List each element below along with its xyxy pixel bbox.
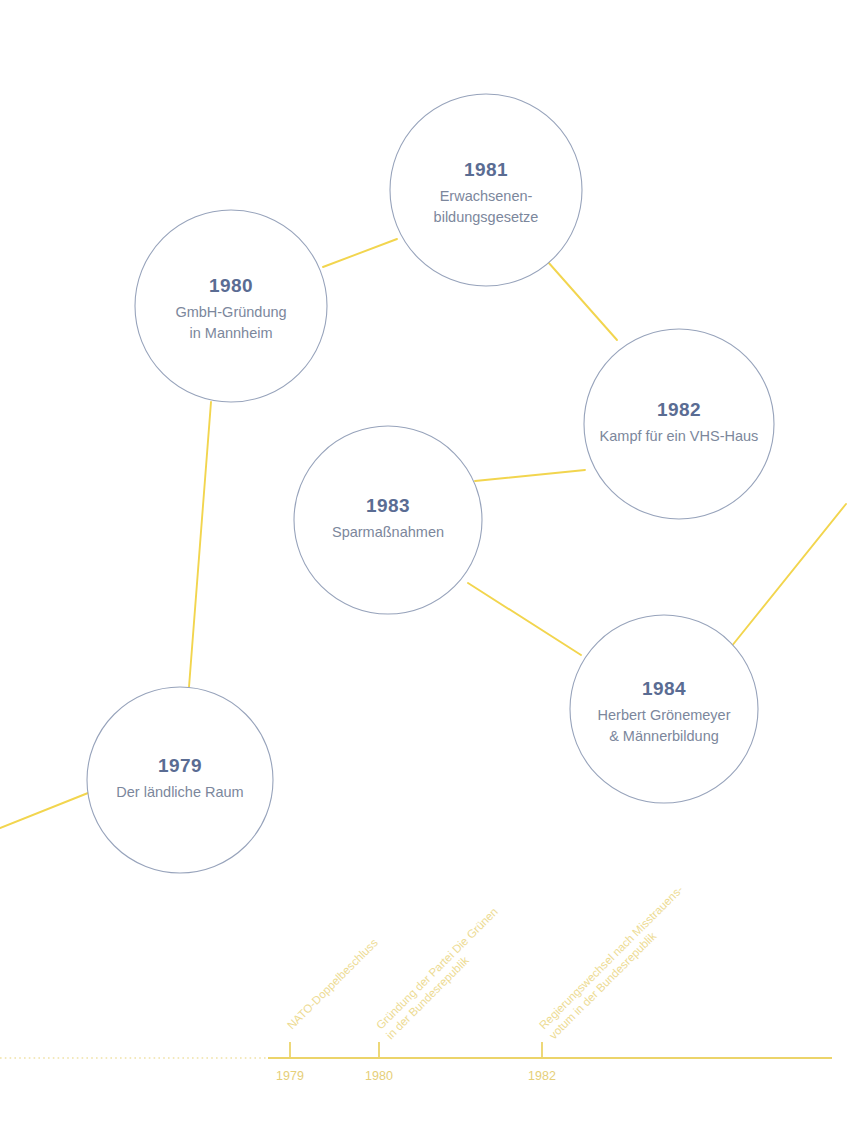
node-circle-1983[interactable] [294, 426, 482, 614]
timeline-node-1981[interactable]: 1981Erwachsenen-bildungsgesetze [390, 94, 582, 286]
axis-ticks [290, 1042, 542, 1058]
node-circle-1979[interactable] [87, 687, 273, 873]
event-label-1-line-1: NATO-Doppelbeschluss [285, 936, 380, 1031]
connector-1980-to-1981 [323, 239, 397, 267]
node-description-1984-line-2: & Männerbildung [609, 728, 719, 744]
node-description-1979-line-1: Der ländliche Raum [116, 784, 243, 800]
node-description-1980-line-2: in Mannheim [189, 325, 272, 341]
node-year-1984: 1984 [642, 678, 686, 699]
node-description-1983-line-1: Sparmaßnahmen [332, 524, 444, 540]
node-year-1980: 1980 [209, 275, 253, 296]
connector-1979-to-1980 [189, 402, 211, 687]
event-label-2-line-2: in der Bundesrepublik [384, 954, 471, 1041]
event-label-2-line-1: Gründung der Partei Die Grünen [374, 905, 500, 1031]
event-label-3-line-2: votum in der Bundesrepublik [547, 930, 659, 1042]
timeline-node-1979[interactable]: 1979Der ländliche Raum [87, 687, 273, 873]
node-description-1981-line-2: bildungsgesetze [434, 209, 539, 225]
node-description-1982-line-1: Kampf für ein VHS-Haus [600, 428, 759, 444]
timeline-node-1980[interactable]: 1980GmbH-Gründungin Mannheim [135, 210, 327, 402]
timeline-axis: 197919801982 [0, 1042, 832, 1083]
node-year-1979: 1979 [158, 755, 202, 776]
timeline-infographic: 1979Der ländliche Raum1980GmbH-Gründungi… [0, 0, 850, 1126]
event-label-group-1: NATO-Doppelbeschluss [285, 936, 380, 1031]
node-year-1981: 1981 [464, 159, 508, 180]
node-year-1982: 1982 [657, 399, 701, 420]
axis-year-label-1980: 1980 [365, 1069, 393, 1083]
node-description-1984-line-1: Herbert Grönemeyer [598, 707, 731, 723]
node-year-1983: 1983 [366, 495, 410, 516]
connector-edge-left-to-1979 [0, 793, 88, 828]
connector-1983-to-1984 [468, 583, 581, 655]
axis-year-label-1979: 1979 [276, 1069, 304, 1083]
event-label-group-3: Regierungswechsel nach Misstrauens-votum… [537, 883, 695, 1041]
timeline-node-1982[interactable]: 1982Kampf für ein VHS-Haus [584, 329, 774, 519]
event-label-3-line-1: Regierungswechsel nach Misstrauens- [537, 883, 685, 1031]
axis-year-labels: 197919801982 [276, 1069, 556, 1083]
connector-1982-to-1983 [475, 470, 585, 481]
connector-1981-to-1982 [548, 262, 617, 340]
connector-1984-to-edge-right [731, 504, 846, 647]
event-label-group-2: Gründung der Partei Die Grünenin der Bun… [374, 905, 510, 1041]
timeline-node-1984[interactable]: 1984Herbert Grönemeyer& Männerbildung [570, 615, 758, 803]
historical-event-labels: NATO-DoppelbeschlussGründung der Partei … [285, 883, 695, 1041]
timeline-nodes: 1979Der ländliche Raum1980GmbH-Gründungi… [87, 94, 774, 873]
axis-year-label-1982: 1982 [528, 1069, 556, 1083]
timeline-node-1983[interactable]: 1983Sparmaßnahmen [294, 426, 482, 614]
node-circle-1982[interactable] [584, 329, 774, 519]
node-description-1981-line-1: Erwachsenen- [440, 188, 533, 204]
timeline-canvas: 1979Der ländliche Raum1980GmbH-Gründungi… [0, 0, 850, 1126]
node-description-1980-line-1: GmbH-Gründung [175, 304, 286, 320]
